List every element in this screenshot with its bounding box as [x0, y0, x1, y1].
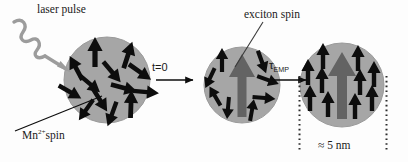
tau-emp-label: τEMP: [269, 60, 289, 72]
exciton-spin-label: exciton spin: [244, 9, 300, 21]
laser-pulse-squiggly-arrow: [14, 20, 71, 72]
mn-spin-label-charge: 2+: [38, 128, 46, 136]
tau-subscript: EMP: [274, 66, 289, 74]
mn-spin-label-element: Mn: [22, 129, 38, 141]
mn-spin-label-suffix: spin: [46, 129, 65, 141]
dot-size-label: ≈ 5 nm: [318, 140, 351, 152]
mn-spin-label: Mn2+spin: [22, 130, 65, 142]
laser-pulse-label: laser pulse: [37, 4, 86, 16]
stage-1-group: [55, 37, 159, 128]
stage-3-group: [300, 43, 384, 127]
time-zero-label: t=0: [152, 62, 168, 73]
